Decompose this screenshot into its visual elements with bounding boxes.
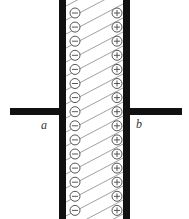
negative-charge-icon: [70, 36, 80, 46]
positive-charge-icon: [112, 8, 122, 18]
negative-charge-icon: [70, 177, 80, 187]
positive-charge-icon: [112, 36, 122, 46]
negative-charge-icon: [70, 149, 80, 159]
negative-charge-icon: [70, 205, 80, 215]
positive-charge-icon: [112, 191, 122, 201]
terminal-label-a: a: [41, 118, 47, 132]
left-plate: [59, 0, 66, 219]
right-plate: [123, 0, 130, 219]
positive-charge-icon: [112, 163, 122, 173]
positive-charge-icon: [112, 64, 122, 74]
negative-charge-icon: [70, 191, 80, 201]
negative-charge-icon: [70, 107, 80, 117]
negative-charge-icon: [70, 121, 80, 131]
left-lead-wire: [10, 108, 60, 115]
positive-charge-icon: [112, 93, 122, 103]
negative-charge-icon: [70, 50, 80, 60]
capacitor-diagram: a b: [0, 0, 189, 219]
positive-charge-icon: [112, 121, 122, 131]
positive-charge-icon: [112, 107, 122, 117]
negative-charge-icon: [70, 135, 80, 145]
terminal-label-b: b: [136, 117, 142, 131]
positive-charge-icon: [112, 205, 122, 215]
positive-charge-icon: [112, 50, 122, 60]
positive-charge-icon: [112, 135, 122, 145]
negative-charge-icon: [70, 22, 80, 32]
positive-charge-icon: [112, 79, 122, 89]
charge-symbols: [70, 8, 122, 215]
positive-charge-icon: [112, 149, 122, 159]
negative-charge-icon: [70, 163, 80, 173]
negative-charge-icon: [70, 64, 80, 74]
negative-charge-icon: [70, 79, 80, 89]
negative-charge-icon: [70, 93, 80, 103]
positive-charge-icon: [112, 22, 122, 32]
positive-charge-icon: [112, 177, 122, 187]
negative-charge-icon: [70, 8, 80, 18]
right-lead-wire: [129, 108, 182, 115]
